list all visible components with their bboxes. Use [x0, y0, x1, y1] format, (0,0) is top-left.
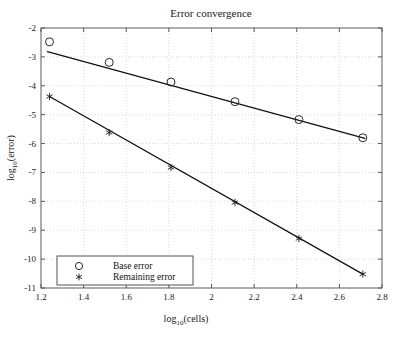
y-tick-label: -10 — [24, 254, 36, 264]
y-tick-label: -7 — [29, 167, 37, 177]
y-tick-label: -11 — [24, 283, 36, 293]
x-axis-label: log10(cells) — [164, 313, 209, 327]
chart-page: 1.21.41.61.822.22.42.62.8-11-10-9-8-7-6-… — [0, 0, 398, 337]
x-tick-label: 2.2 — [249, 292, 260, 302]
x-tick-label: 1.6 — [121, 292, 133, 302]
svg-text:log10(cells): log10(cells) — [164, 313, 209, 327]
y-tick-label: -4 — [29, 81, 37, 91]
error-convergence-chart: 1.21.41.61.822.22.42.62.8-11-10-9-8-7-6-… — [0, 0, 398, 337]
data-point-circle — [105, 58, 113, 66]
x-tick-label: 2.6 — [334, 292, 346, 302]
chart-title: Error convergence — [170, 7, 251, 19]
fit-line-1 — [50, 96, 363, 274]
y-tick-label: -5 — [29, 110, 37, 120]
x-tick-label: 1.8 — [163, 292, 175, 302]
data-point-asterisk — [46, 93, 52, 100]
svg-text:log10(error): log10(error) — [5, 135, 19, 181]
x-tick-label: 1.2 — [35, 292, 46, 302]
legend-label-0: Base error — [113, 261, 153, 271]
chart-legend[interactable]: Base error Remaining error — [57, 256, 193, 285]
data-point-circle — [46, 38, 54, 46]
data-point-asterisk — [168, 164, 174, 171]
legend-label-1: Remaining error — [113, 272, 176, 282]
data-point-asterisk — [106, 129, 112, 136]
x-tick-label: 2 — [209, 292, 214, 302]
y-axis-label-base: log — [5, 168, 16, 181]
y-tick-label: -8 — [29, 196, 37, 206]
data-series — [46, 38, 367, 278]
x-tick-label: 1.4 — [78, 292, 90, 302]
y-tick-label: -9 — [29, 225, 37, 235]
gridlines — [41, 28, 382, 288]
y-tick-label: -3 — [29, 52, 37, 62]
y-tick-label: -2 — [29, 23, 37, 33]
y-tick-label: -6 — [29, 139, 37, 149]
x-tick-label: 2.4 — [291, 292, 303, 302]
y-axis-label: log10(error) — [5, 135, 19, 181]
x-tick-label: 2.8 — [376, 292, 388, 302]
y-axis-label-rest: (error) — [5, 135, 17, 161]
data-point-asterisk — [360, 271, 366, 278]
x-axis-label-base: log — [164, 313, 177, 324]
fit-line-0 — [47, 52, 365, 139]
x-axis-label-rest: (cells) — [183, 313, 208, 325]
